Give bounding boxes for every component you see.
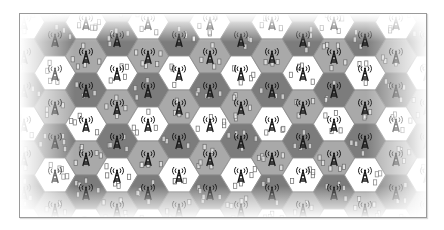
mobile-phone-icon: [253, 167, 256, 172]
mobile-phone-icon: [124, 106, 127, 111]
hex-cell-grid: [20, 14, 427, 218]
mobile-phone-icon: [128, 174, 131, 179]
mobile-phone-icon: [196, 126, 199, 131]
mobile-phone-icon: [338, 166, 341, 171]
mobile-phone-icon: [147, 162, 150, 167]
mobile-phone-icon: [162, 136, 165, 141]
mobile-phone-icon: [280, 165, 283, 170]
mobile-phone-icon: [281, 94, 284, 99]
mobile-phone-icon: [336, 43, 339, 48]
mobile-phone-icon: [135, 50, 138, 55]
mobile-phone-icon: [141, 61, 144, 66]
mobile-phone-icon: [82, 43, 85, 48]
mobile-phone-icon: [223, 119, 226, 124]
mobile-phone-icon: [318, 155, 321, 160]
mobile-phone-icon: [173, 82, 176, 87]
mobile-phone-icon: [267, 178, 270, 183]
mobile-phone-icon: [187, 143, 190, 148]
mobile-phone-icon: [105, 104, 108, 109]
mobile-phone-icon: [98, 59, 101, 64]
mobile-phone-icon: [186, 113, 189, 118]
mobile-phone-icon: [85, 178, 88, 183]
mobile-phone-icon: [276, 59, 279, 64]
mobile-phone-icon: [302, 130, 305, 135]
mobile-phone-icon: [324, 98, 327, 103]
mobile-phone-icon: [159, 162, 162, 167]
mobile-phone-icon: [361, 151, 364, 156]
mobile-phone-icon: [324, 113, 327, 118]
mobile-phone-icon: [183, 178, 186, 183]
mobile-phone-icon: [132, 125, 135, 130]
mobile-phone-icon: [257, 155, 260, 160]
mobile-phone-icon: [250, 173, 253, 178]
mobile-phone-icon: [125, 64, 128, 69]
mobile-phone-icon: [146, 78, 149, 83]
mobile-phone-icon: [218, 59, 221, 64]
mobile-phone-icon: [330, 66, 333, 71]
mobile-phone-icon: [239, 80, 242, 85]
mobile-phone-icon: [108, 41, 111, 46]
mobile-phone-icon: [123, 74, 126, 79]
mobile-phone-icon: [172, 217, 175, 218]
mobile-phone-icon: [219, 91, 222, 96]
mobile-phone-icon: [260, 88, 263, 93]
mobile-phone-icon: [213, 64, 216, 69]
mobile-phone-icon: [197, 88, 200, 93]
mobile-phone-icon: [115, 113, 118, 118]
mobile-phone-icon: [80, 145, 83, 150]
mobile-phone-icon: [339, 128, 342, 133]
mobile-phone-icon: [329, 166, 332, 171]
mobile-phone-icon: [254, 136, 257, 141]
mobile-phone-icon: [363, 115, 366, 120]
mobile-phone-icon: [106, 173, 109, 178]
mobile-phone-icon: [308, 144, 311, 149]
mobile-phone-icon: [140, 162, 143, 167]
mobile-phone-icon: [322, 44, 325, 49]
mobile-phone-icon: [211, 43, 214, 48]
mobile-phone-icon: [264, 60, 267, 65]
mobile-phone-icon: [322, 160, 325, 165]
mobile-phone-icon: [75, 181, 78, 186]
mobile-phone-icon: [305, 48, 308, 53]
mobile-phone-icon: [199, 160, 202, 165]
mobile-phone-icon: [281, 153, 284, 158]
mobile-phone-icon: [326, 42, 329, 47]
mobile-phone-icon: [93, 91, 96, 96]
mobile-phone-icon: [234, 113, 237, 118]
mobile-phone-icon: [135, 95, 138, 100]
mobile-phone-icon: [265, 130, 268, 135]
mobile-phone-icon: [293, 143, 296, 148]
mobile-phone-icon: [76, 64, 79, 69]
mobile-phone-icon: [109, 78, 112, 83]
mobile-phone-icon: [282, 126, 285, 131]
mobile-phone-icon: [95, 150, 98, 155]
mobile-phone-icon: [342, 164, 345, 169]
mobile-phone-icon: [227, 133, 230, 138]
mobile-phone-icon: [312, 170, 315, 175]
mobile-phone-icon: [334, 110, 337, 115]
mobile-phone-icon: [105, 164, 108, 169]
mobile-phone-icon: [144, 63, 147, 68]
mobile-phone-icon: [350, 140, 353, 145]
mobile-phone-icon: [311, 79, 314, 84]
mobile-phone-icon: [252, 72, 255, 77]
mobile-phone-icon: [125, 146, 128, 151]
mobile-phone-icon: [312, 99, 315, 104]
mobile-phone-icon: [115, 95, 118, 100]
mobile-phone-icon: [109, 143, 112, 148]
mobile-phone-icon: [159, 51, 162, 56]
mobile-phone-icon: [248, 105, 251, 110]
mobile-phone-icon: [154, 125, 157, 130]
mobile-phone-icon: [307, 42, 310, 47]
mobile-phone-icon: [135, 130, 138, 135]
mobile-phone-icon: [203, 144, 206, 149]
mobile-phone-icon: [96, 130, 99, 135]
mobile-phone-icon: [75, 82, 78, 87]
mobile-phone-icon: [289, 72, 292, 77]
mobile-phone-icon: [355, 141, 358, 146]
diagram-frame: [19, 13, 427, 218]
mobile-phone-icon: [99, 153, 102, 158]
mobile-phone-icon: [262, 181, 265, 186]
mobile-phone-icon: [344, 60, 347, 65]
mobile-phone-icon: [291, 178, 294, 183]
